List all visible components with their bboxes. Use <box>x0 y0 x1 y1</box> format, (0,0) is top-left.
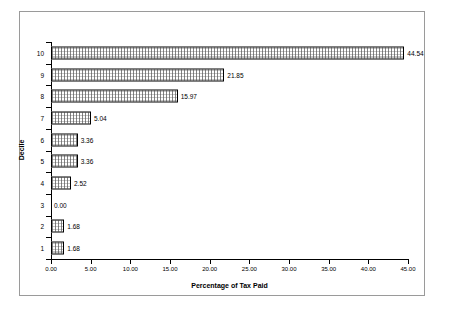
x-axis-tick <box>408 259 409 264</box>
x-axis-tick <box>210 259 211 264</box>
y-axis-tick-label: 8 <box>0 93 44 100</box>
y-axis-tick <box>46 42 51 43</box>
x-axis-tick-label: 40.00 <box>361 266 376 272</box>
bar-value-label: 1.68 <box>67 245 80 252</box>
bar-value-label: 15.97 <box>181 93 197 100</box>
y-axis-tick <box>46 129 51 130</box>
bar <box>51 68 224 81</box>
y-axis-tick-label: 2 <box>0 223 44 230</box>
x-axis-tick <box>329 259 330 264</box>
y-axis-tick <box>46 216 51 217</box>
y-axis-tick <box>46 151 51 152</box>
x-axis-tick-label: 15.00 <box>162 266 177 272</box>
x-axis-tick-label: 10.00 <box>123 266 138 272</box>
bar <box>51 46 404 59</box>
bar <box>51 155 78 168</box>
y-axis-tick-label: 7 <box>0 114 44 121</box>
y-axis-tick-label: 9 <box>0 71 44 78</box>
bar-value-label: 3.36 <box>81 158 94 165</box>
y-axis-title: Decile <box>18 140 25 161</box>
x-axis-tick <box>289 259 290 264</box>
bar <box>51 90 178 103</box>
bar <box>51 177 71 190</box>
y-axis-tick-label: 3 <box>0 201 44 208</box>
y-axis-tick <box>46 237 51 238</box>
x-axis-tick <box>51 259 52 264</box>
x-axis-title: Percentage of Tax Paid <box>51 282 408 289</box>
bar <box>51 133 78 146</box>
bar <box>51 220 64 233</box>
y-axis-tick <box>46 85 51 86</box>
x-axis-tick-label: 30.00 <box>281 266 296 272</box>
bar <box>51 242 64 255</box>
x-axis-tick-label: 45.00 <box>400 266 415 272</box>
x-axis-tick <box>91 259 92 264</box>
bar-value-label: 5.04 <box>94 114 107 121</box>
x-axis-tick <box>130 259 131 264</box>
bar-value-label: 1.68 <box>67 223 80 230</box>
y-axis-tick-label: 10 <box>0 49 44 56</box>
bar-value-label: 44.54 <box>407 49 423 56</box>
x-axis-tick <box>368 259 369 264</box>
x-axis-tick-label: 5.00 <box>85 266 97 272</box>
bar-value-label: 0.00 <box>54 201 67 208</box>
x-axis-tick-label: 0.00 <box>45 266 57 272</box>
y-axis-tick-label: 1 <box>0 245 44 252</box>
y-axis-tick-label: 4 <box>0 180 44 187</box>
x-axis-tick-label: 25.00 <box>242 266 257 272</box>
y-axis-tick <box>46 107 51 108</box>
x-axis-tick-label: 35.00 <box>321 266 336 272</box>
y-axis-tick <box>46 172 51 173</box>
bar <box>51 111 91 124</box>
y-axis-tick <box>46 64 51 65</box>
y-axis-tick <box>46 194 51 195</box>
x-axis-tick-label: 20.00 <box>202 266 217 272</box>
bar-value-label: 21.85 <box>227 71 243 78</box>
x-axis-tick <box>249 259 250 264</box>
bar-value-label: 3.36 <box>81 136 94 143</box>
chart-root: 12345678910 0.005.0010.0015.0020.0025.00… <box>0 0 449 312</box>
bar-value-label: 2.52 <box>74 180 87 187</box>
x-axis-line <box>51 259 408 260</box>
x-axis-tick <box>170 259 171 264</box>
